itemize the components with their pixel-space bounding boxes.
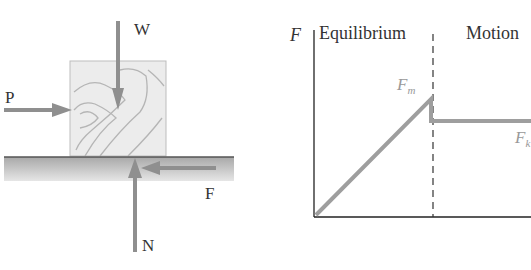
kinetic-force-label: Fk (515, 128, 530, 149)
peak-force-label: Fm (397, 75, 415, 96)
label-w: W (134, 20, 150, 40)
region-motion: Motion (466, 23, 519, 44)
label-f: F (205, 184, 214, 204)
diagram-canvas (0, 0, 531, 270)
y-axis-label: F (290, 25, 301, 46)
label-p: P (5, 88, 14, 108)
force-graph (314, 30, 531, 217)
label-n: N (142, 236, 154, 256)
normal-arrow (128, 158, 142, 252)
region-equilibrium: Equilibrium (319, 23, 406, 44)
